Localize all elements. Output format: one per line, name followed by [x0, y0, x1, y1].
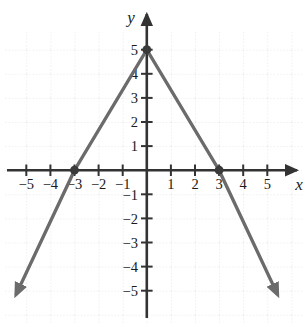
x-tick-label: 4 — [240, 176, 248, 192]
x-tick-label: 5 — [264, 176, 271, 192]
y-tick-label: −2 — [123, 211, 138, 227]
x-tick-label: −4 — [43, 176, 59, 192]
x-axis-label: x — [294, 175, 303, 194]
coordinate-plane-figure: −5 −4 −3 −2 −1 1 2 3 4 5 5 4 3 2 1 −1 −2… — [0, 0, 305, 327]
x-tick-label: 2 — [191, 176, 198, 192]
graph-svg: −5 −4 −3 −2 −1 1 2 3 4 5 5 4 3 2 1 −1 −2… — [0, 0, 305, 327]
y-tick-label: 1 — [131, 138, 138, 154]
y-tick-label: 3 — [131, 90, 138, 106]
y-tick-label: −3 — [123, 235, 138, 251]
vertex-point — [142, 45, 151, 54]
x-intercept-right-point — [215, 166, 224, 175]
graph-page: 4. — [0, 0, 305, 327]
y-tick-label: 2 — [131, 114, 138, 130]
x-tick-label: 1 — [167, 176, 174, 192]
y-tick-label: −5 — [123, 283, 138, 299]
x-tick-label: −5 — [19, 176, 34, 192]
x-tick-label: −2 — [91, 176, 106, 192]
y-axis-label: y — [125, 8, 135, 27]
y-tick-label: 5 — [131, 42, 138, 58]
y-tick-label: −4 — [123, 259, 139, 275]
x-intercept-left-point — [70, 166, 79, 175]
y-tick-label: −1 — [123, 187, 138, 203]
